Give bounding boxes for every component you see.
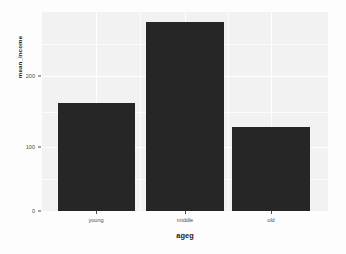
y-tick-mark-200 [38, 76, 41, 77]
x-tick-mark-middle [185, 211, 186, 214]
plot-panel [42, 12, 328, 211]
gridline-minor-x-2 [228, 12, 229, 211]
y-tick-label-100: 100 [24, 144, 38, 151]
y-axis-title: mean_income [14, 22, 26, 92]
y-tick-mark-0 [38, 211, 41, 212]
x-tick-label-old: old [267, 216, 274, 224]
x-tick-label-middle: middle [177, 216, 193, 224]
x-axis-title: ageg [42, 231, 328, 241]
bar-old[interactable] [232, 127, 310, 210]
y-tick-label-200: 200 [24, 73, 38, 80]
x-tick-mark-young [96, 211, 97, 214]
bar-young[interactable] [58, 103, 135, 211]
x-tick-label-young: young [88, 216, 103, 224]
y-tick-label-0: 0 [24, 208, 38, 215]
y-tick-mark-100 [38, 147, 41, 148]
x-tick-mark-old [271, 211, 272, 214]
gridline-minor-x-1 [140, 12, 141, 211]
bar-chart: mean_income 200 100 0 young [0, 0, 346, 254]
bar-middle[interactable] [146, 22, 224, 210]
